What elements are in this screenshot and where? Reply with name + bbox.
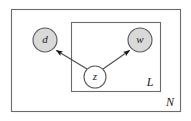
node-d-label: d [42, 33, 48, 45]
outer-plate-n-label: N [165, 95, 175, 109]
plate-diagram-figure: d w z L N [0, 0, 191, 121]
node-w-label: w [136, 33, 144, 45]
node-z-label: z [92, 70, 98, 82]
plate-diagram-canvas: d w z L N [0, 0, 191, 121]
inner-plate-l-label: L [146, 75, 154, 89]
